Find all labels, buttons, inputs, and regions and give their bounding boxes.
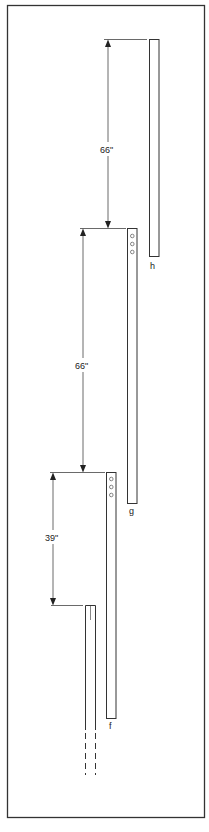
element-g-bar bbox=[128, 229, 138, 504]
element-h-bar bbox=[150, 40, 160, 257]
dimension-g-to-h-label: 66" bbox=[100, 145, 113, 155]
element-h bbox=[150, 40, 160, 257]
diagram-canvas: h 66" g 66" f 39" bbox=[0, 0, 209, 832]
element-f-bar bbox=[107, 473, 117, 719]
dimension-f-to-g-label: 66" bbox=[75, 361, 88, 371]
element-g-label: g bbox=[129, 506, 134, 516]
element-h-label: h bbox=[150, 261, 155, 271]
dimension-mast-to-f-label: 39" bbox=[45, 533, 58, 543]
